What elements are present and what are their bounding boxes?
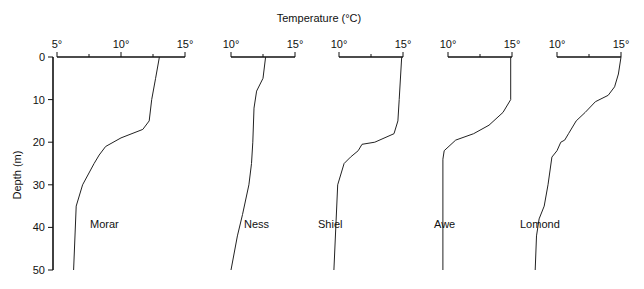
temp-tick-label: 15°: [504, 38, 521, 50]
depth-tick-label: 40: [33, 221, 45, 233]
panel-ness: 10°15°Ness: [223, 38, 304, 270]
panel-awe: 10°15°Awe: [434, 38, 520, 270]
temperature-profile-line: [231, 57, 266, 270]
depth-tick-label: 50: [33, 264, 45, 276]
temperature-profile-line: [334, 57, 402, 270]
temp-tick-label: 10°: [113, 38, 130, 50]
depth-axis: 01020304050: [33, 51, 53, 276]
temp-tick-label: 15°: [177, 38, 194, 50]
lake-label: Morar: [90, 218, 119, 230]
depth-tick-label: 30: [33, 179, 45, 191]
temp-tick-label: 15°: [287, 38, 304, 50]
lake-label: Ness: [244, 218, 270, 230]
temperature-profile-line: [74, 57, 160, 270]
y-axis-title: Depth (m): [11, 151, 23, 200]
panel-shiel: 10°15°Shiel: [318, 38, 411, 270]
temperature-profile-line: [443, 57, 511, 270]
temp-tick-label: 5°: [52, 38, 63, 50]
panel-morar: 5°10°15°Morar: [52, 38, 194, 270]
lake-label: Lomond: [520, 218, 560, 230]
lake-panels: 5°10°15°Morar10°15°Ness10°15°Shiel10°15°…: [52, 38, 630, 270]
temp-tick-label: 15°: [613, 38, 630, 50]
temp-tick-label: 15°: [395, 38, 412, 50]
temperature-profile-line: [535, 57, 621, 270]
temp-tick-label: 10°: [223, 38, 240, 50]
x-axis-title: Temperature (°C): [277, 12, 361, 24]
panel-lomond: 10°15°Lomond: [520, 38, 629, 270]
lake-label: Awe: [434, 218, 455, 230]
temp-tick-label: 10°: [331, 38, 348, 50]
temp-tick-label: 10°: [549, 38, 566, 50]
temperature-depth-chart: Temperature (°C) Depth (m) 01020304050 5…: [0, 0, 644, 289]
depth-tick-label: 20: [33, 136, 45, 148]
depth-tick-label: 0: [39, 51, 45, 63]
temp-tick-label: 10°: [440, 38, 457, 50]
depth-tick-label: 10: [33, 94, 45, 106]
lake-label: Shiel: [318, 218, 342, 230]
